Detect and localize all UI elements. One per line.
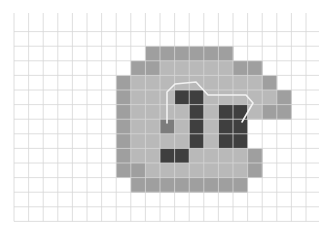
grid-cell [160, 148, 175, 163]
grid-cell [218, 119, 233, 134]
grid-cell [204, 163, 219, 178]
grid-cell [233, 178, 248, 193]
grid-cell [248, 75, 263, 90]
grid-cell [189, 163, 204, 178]
grid-cell [131, 105, 146, 120]
grid-cell [189, 90, 204, 105]
grid-cell [204, 46, 219, 61]
grid-cell [131, 61, 146, 76]
grid-cell [248, 148, 263, 163]
grid-cell [218, 105, 233, 120]
grid-cell [189, 46, 204, 61]
grid-cell [204, 119, 219, 134]
grid-cell [189, 105, 204, 120]
grid-cell [116, 134, 131, 149]
grid-cell [160, 178, 175, 193]
grid-cell [218, 178, 233, 193]
grid-cell [175, 134, 190, 149]
grid-cell [145, 134, 160, 149]
grid-cell [160, 163, 175, 178]
grid-cell [189, 148, 204, 163]
grid-cell [204, 61, 219, 76]
grid-cell [131, 163, 146, 178]
grid-cell [233, 148, 248, 163]
grid-cell [175, 46, 190, 61]
grid-cell [131, 119, 146, 134]
grid-cell [262, 75, 277, 90]
grid-cell [145, 148, 160, 163]
grid-cell [277, 90, 292, 105]
grid-cell [204, 134, 219, 149]
grid-cell [204, 105, 219, 120]
grid-cell [218, 46, 233, 61]
grid-cell [262, 105, 277, 120]
grid-cell [218, 61, 233, 76]
grid-cell [160, 61, 175, 76]
grid-cell [116, 163, 131, 178]
grid-cell [175, 90, 190, 105]
grid-cell [145, 163, 160, 178]
grid-cell [160, 75, 175, 90]
grid-cell [218, 75, 233, 90]
grid-cell [145, 61, 160, 76]
grid-cell [175, 61, 190, 76]
grid-cell [145, 90, 160, 105]
grid-cell [131, 75, 146, 90]
grid-cell [189, 178, 204, 193]
grid-cell [248, 61, 263, 76]
grid-cell [204, 75, 219, 90]
grid-cell [160, 46, 175, 61]
grid-cell [218, 90, 233, 105]
grid-cell [160, 134, 175, 149]
grid-cell [145, 105, 160, 120]
grid-cell [175, 148, 190, 163]
grid-cell [189, 61, 204, 76]
grid-cell [233, 119, 248, 134]
grid-cell [145, 119, 160, 134]
grid-cell [262, 90, 277, 105]
grid-cell [248, 90, 263, 105]
grid-cell [116, 90, 131, 105]
grid-cell [233, 61, 248, 76]
grid-cell [175, 119, 190, 134]
grid-cell [175, 105, 190, 120]
grid-cell [248, 163, 263, 178]
grid-cell [131, 178, 146, 193]
grid-cell [233, 163, 248, 178]
grid-cell [189, 134, 204, 149]
grid-cell [204, 178, 219, 193]
grid-cell [189, 119, 204, 134]
grid-cell [204, 148, 219, 163]
grid-cell [145, 75, 160, 90]
grid-cell [233, 105, 248, 120]
grid-cell [116, 119, 131, 134]
grid-cell [145, 46, 160, 61]
grid-cell [218, 163, 233, 178]
grid-cell [145, 178, 160, 193]
grid-cell [277, 105, 292, 120]
grid-cell [131, 134, 146, 149]
grid-cell [175, 178, 190, 193]
grid-cell [116, 105, 131, 120]
grid-cell [116, 75, 131, 90]
grid-cell [218, 148, 233, 163]
grid-cell [233, 75, 248, 90]
grid-cell [131, 148, 146, 163]
grid-cell [175, 163, 190, 178]
grid-cell [116, 148, 131, 163]
grid-cell [233, 134, 248, 149]
pixel-grid-figure [0, 0, 319, 231]
grid-cell [131, 90, 146, 105]
grid-cell [233, 90, 248, 105]
grid-cell [218, 134, 233, 149]
